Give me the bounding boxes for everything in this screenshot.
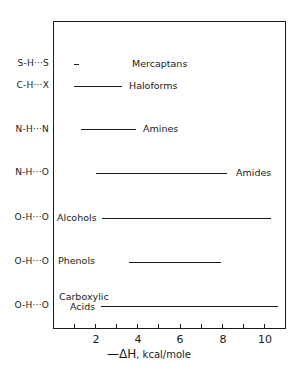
range-bar-mercaptans [74, 64, 79, 65]
x-tick-8 [222, 324, 223, 328]
row-label-o-h-o-carboxylic: O-H···O [15, 300, 49, 310]
row-label-n-h-n: N-H···N [16, 124, 49, 134]
x-tick-label-10: 10 [255, 333, 275, 346]
x-tick-9 [243, 324, 244, 328]
series-label-amines: Amines [143, 123, 178, 134]
row-label-s-h-s: S-H···S [18, 58, 49, 68]
x-tick-label-6: 6 [170, 333, 190, 346]
range-bar-haloforms [74, 86, 122, 87]
series-label-phenols: Phenols [58, 255, 95, 266]
range-bar-carboxylic-acids [101, 306, 278, 307]
x-tick-5 [158, 324, 159, 328]
series-label-mercaptans: Mercaptans [132, 58, 187, 69]
x-axis-title: —ΔH, kcal/mole [107, 347, 191, 361]
row-label-n-h-o: N-H···O [15, 167, 49, 177]
range-bar-amines [81, 129, 136, 130]
series-label-haloforms: Haloforms [129, 80, 178, 91]
row-label-o-h-o-phenols: O-H···O [15, 256, 49, 266]
x-tick-label-8: 8 [213, 333, 233, 346]
range-bar-alcohols [102, 218, 271, 219]
row-label-c-h-x: C-H···X [17, 80, 49, 90]
range-bar-phenols [129, 262, 221, 263]
x-tick-6 [180, 324, 181, 328]
series-label-amides: Amides [236, 167, 271, 178]
x-tick-7 [201, 324, 202, 328]
series-label-acids: Acids [70, 301, 95, 312]
x-axis-unit: , kcal/mole [136, 349, 191, 360]
row-label-o-h-o-alcohols: O-H···O [15, 212, 49, 222]
x-tick-2 [95, 324, 96, 328]
x-tick-4 [137, 324, 138, 328]
hydrogen-bond-enthalpy-chart: S-H···S Mercaptans C-H···X Haloforms N-H… [0, 0, 302, 372]
x-axis-symbol: —ΔH [107, 347, 136, 361]
x-tick-3 [116, 324, 117, 328]
series-label-alcohols: Alcohols [57, 212, 97, 223]
x-tick-label-4: 4 [128, 333, 148, 346]
x-tick-label-2: 2 [86, 333, 106, 346]
x-tick-1 [74, 324, 75, 328]
x-tick-10 [264, 324, 265, 328]
range-bar-amides [96, 173, 227, 174]
